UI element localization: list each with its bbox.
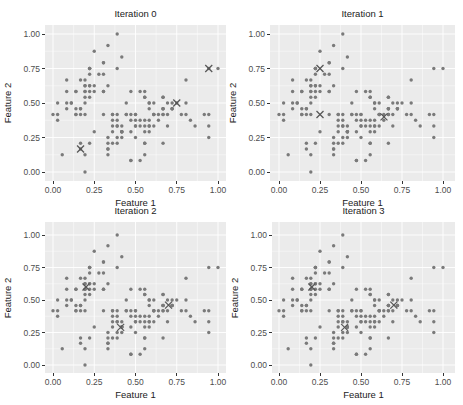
- y-tick-mark: [269, 235, 272, 236]
- data-point: [166, 101, 169, 104]
- data-point: [65, 90, 68, 93]
- data-point: [368, 347, 371, 350]
- data-point: [382, 315, 385, 318]
- data-point: [115, 119, 118, 122]
- data-point: [378, 309, 381, 312]
- data-point: [111, 325, 114, 328]
- data-point: [291, 107, 294, 110]
- data-point: [61, 153, 64, 156]
- data-point: [65, 78, 68, 81]
- data-point: [286, 153, 289, 156]
- data-point: [111, 130, 114, 133]
- y-axis-label: Feature 2: [227, 83, 238, 124]
- x-tick-mark: [279, 373, 280, 376]
- data-point: [337, 124, 340, 127]
- data-point: [277, 309, 280, 312]
- data-point: [359, 331, 362, 334]
- data-point: [364, 124, 367, 127]
- data-point: [327, 90, 330, 93]
- data-point: [428, 309, 431, 312]
- data-point: [318, 250, 321, 253]
- data-point: [368, 336, 371, 339]
- data-point: [93, 282, 96, 285]
- data-point: [184, 113, 187, 116]
- data-point: [396, 298, 399, 301]
- data-point: [79, 336, 82, 339]
- data-point: [143, 90, 146, 93]
- data-point: [115, 336, 118, 339]
- panel-title: Iteration 3: [342, 205, 384, 216]
- data-point: [318, 288, 321, 291]
- data-point: [282, 113, 285, 116]
- data-point: [318, 84, 321, 87]
- data-point: [337, 130, 340, 133]
- data-point: [79, 107, 82, 110]
- data-point: [373, 107, 376, 110]
- data-point: [314, 90, 317, 93]
- data-point: [129, 159, 132, 162]
- data-point: [134, 113, 137, 116]
- data-point: [170, 107, 173, 110]
- data-point: [432, 320, 435, 323]
- data-point: [359, 136, 362, 139]
- data-point: [106, 282, 109, 285]
- data-point: [161, 309, 164, 312]
- x-tick-mark: [135, 373, 136, 376]
- data-point: [143, 130, 146, 133]
- data-point: [143, 320, 146, 323]
- y-tick-label: 0.75: [10, 263, 40, 273]
- x-tick-mark: [176, 373, 177, 376]
- data-point: [314, 266, 317, 269]
- data-point: [314, 84, 317, 87]
- data-point: [341, 124, 344, 127]
- data-point: [152, 309, 155, 312]
- data-point: [314, 336, 317, 339]
- x-tick-mark: [176, 181, 177, 184]
- data-point: [134, 119, 137, 122]
- y-tick-label: 0.75: [237, 263, 267, 273]
- data-point: [193, 320, 196, 323]
- x-tick-label: 0.00: [264, 377, 294, 387]
- x-tick-label: 0.50: [121, 377, 151, 387]
- y-tick-mark: [42, 300, 45, 301]
- data-point: [364, 159, 367, 162]
- data-point: [106, 44, 109, 47]
- data-point: [346, 331, 349, 334]
- data-point: [341, 119, 344, 122]
- data-point: [314, 142, 317, 145]
- data-point: [332, 84, 335, 87]
- data-point: [286, 347, 289, 350]
- data-point: [147, 298, 150, 301]
- data-point: [373, 304, 376, 307]
- data-point: [115, 315, 118, 318]
- data-point: [337, 119, 340, 122]
- data-point: [332, 142, 335, 145]
- data-point: [309, 78, 312, 81]
- data-point: [83, 347, 86, 350]
- data-point: [120, 331, 123, 334]
- data-point: [432, 309, 435, 312]
- y-tick-mark: [267, 34, 270, 35]
- data-point: [56, 315, 59, 318]
- data-point: [378, 113, 381, 116]
- data-point: [355, 113, 358, 116]
- x-tick-mark: [320, 373, 321, 376]
- data-point: [378, 298, 381, 301]
- data-point: [391, 113, 394, 116]
- data-point: [79, 277, 82, 280]
- data-point: [318, 282, 321, 285]
- y-tick-mark: [42, 365, 45, 366]
- data-point: [318, 50, 321, 53]
- data-point: [387, 309, 390, 312]
- data-point: [157, 309, 160, 312]
- data-point: [125, 309, 128, 312]
- data-point: [309, 84, 312, 87]
- data-point: [332, 347, 335, 350]
- data-point: [441, 266, 444, 269]
- y-tick-mark: [42, 34, 45, 35]
- data-point: [364, 288, 367, 291]
- data-point: [337, 309, 340, 312]
- data-point: [93, 325, 96, 328]
- data-point: [332, 331, 335, 334]
- y-tick-label: 0.50: [237, 295, 267, 305]
